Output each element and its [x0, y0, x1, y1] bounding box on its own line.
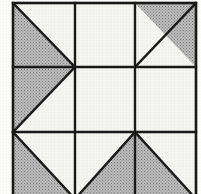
quilt-block-drawing	[0, 0, 201, 194]
quilt-block-figure	[0, 0, 201, 194]
